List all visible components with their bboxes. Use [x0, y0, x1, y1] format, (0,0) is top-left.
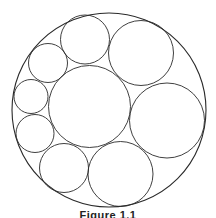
figure-caption: Figure 1.1 — [0, 209, 216, 218]
left-middle-circle — [14, 80, 48, 114]
left-lower-circle — [16, 115, 54, 153]
upper-left-circle — [29, 44, 68, 83]
bottom-right-circle — [88, 142, 153, 207]
top-middle-circle — [61, 15, 110, 64]
top-right-circle — [109, 21, 174, 86]
right-circle — [130, 83, 205, 158]
circle-packing-diagram — [0, 0, 216, 218]
bottom-left-circle — [40, 144, 89, 193]
